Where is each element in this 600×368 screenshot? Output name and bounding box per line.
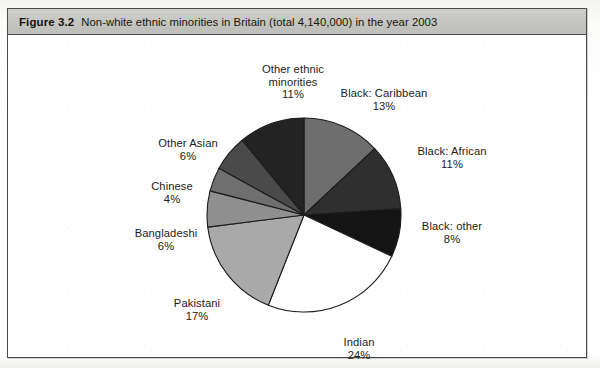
pie-slice-label-percent: 6% [142, 150, 234, 163]
pie-slice-group: Black: Caribbean 13%Black: African 11%Bl… [207, 118, 401, 312]
pie-slice-label-name: Black: African [400, 145, 504, 158]
figure-caption-text: Non-white ethnic minorities in Britain (… [81, 16, 437, 28]
pie-slice-label: Black: African11% [400, 145, 504, 170]
pie-slice-label-name: Black: other [404, 220, 500, 233]
chart-area: Black: Caribbean 13%Black: African 11%Bl… [8, 35, 586, 357]
pie-slice-label-percent: 13% [324, 100, 444, 113]
pie-slice-label-name: Black: Caribbean [324, 87, 444, 100]
pie-slice-label-name: Other ethnic [238, 63, 348, 76]
pie-slice-label-name: Chinese [136, 180, 208, 193]
pie-slice-label-name: Pakistani [156, 297, 238, 310]
figure-caption-band: Figure 3.2 Non-white ethnic minorities i… [8, 9, 586, 35]
pie-slice-label-name: Bangladeshi [120, 227, 212, 240]
figure-box: Figure 3.2 Non-white ethnic minorities i… [7, 8, 587, 358]
pie-slice-label-percent: 4% [136, 193, 208, 206]
pie-slice-label-percent: 11% [400, 158, 504, 171]
pie-slice-label: Chinese4% [136, 180, 208, 205]
pie-slice-label: Black: Caribbean13% [324, 87, 444, 112]
pie-slice-label-percent: 24% [326, 349, 392, 362]
pie-slice-label: Indian24% [326, 336, 392, 361]
figure-number-label: Figure 3.2 [19, 16, 74, 28]
pie-slice-label-percent: 8% [404, 233, 500, 246]
pie-slice-label: Bangladeshi6% [120, 227, 212, 252]
pie-slice-label-percent: 6% [120, 240, 212, 253]
pie-slice-label-percent: 17% [156, 310, 238, 323]
pie-slice-label: Black: other8% [404, 220, 500, 245]
figure-page: Figure 3.2 Non-white ethnic minorities i… [0, 0, 600, 368]
pie-slice-label-name: Other Asian [142, 137, 234, 150]
pie-slice-label-name: Indian [326, 336, 392, 349]
pie-slice-label: Other Asian6% [142, 137, 234, 162]
pie-slice-label: Pakistani17% [156, 297, 238, 322]
